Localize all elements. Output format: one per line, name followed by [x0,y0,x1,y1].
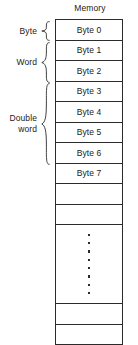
memory-cell: Byte 3 [56,82,122,103]
memory-cell: Byte 5 [56,123,122,144]
brace-label-byte: Byte [0,26,40,37]
vertical-ellipsis-icon [88,234,90,295]
memory-cell-label: Byte 1 [77,45,102,55]
memory-cell-empty [56,205,122,226]
memory-cell: Byte 2 [56,61,122,82]
memory-cell-label: Byte 0 [77,25,102,35]
memory-cell-label: Byte 4 [77,107,102,117]
memory-cell-label: Byte 7 [77,168,102,178]
memory-cell-label: Byte 2 [77,66,102,76]
curly-brace-icon-word [41,42,50,83]
memory-cell: Byte 1 [56,41,122,62]
diagram-title: Memory [55,3,125,14]
brace-label-double-word: Double word [0,113,40,134]
memory-cell-label: Byte 5 [77,127,102,137]
brace-label-word: Word [0,57,40,68]
memory-cell: Byte 6 [56,143,122,164]
memory-cell-empty [56,184,122,205]
memory-cell: Byte 7 [56,164,122,185]
memory-cell-label: Byte 6 [77,148,102,158]
curly-brace-icon-byte [41,21,50,41]
memory-cell-continuation [56,225,122,304]
memory-cell-label: Byte 3 [77,86,102,96]
memory-cell: Byte 4 [56,102,122,123]
memory-cell: Byte 0 [56,20,122,41]
curly-brace-icon-double-word [41,83,50,165]
memory-cell-empty [56,304,122,325]
memory-cell-empty [56,325,122,345]
memory-cell-column: Byte 0 Byte 1 Byte 2 Byte 3 Byte 4 Byte … [55,19,123,345]
